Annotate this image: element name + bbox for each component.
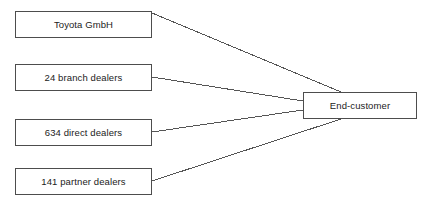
node-partner-dealers[interactable]: 141 partner dealers [15,168,152,195]
connector-direct-to-endcustomer [152,110,303,132]
node-toyota-gmbh[interactable]: Toyota GmbH [15,11,152,38]
node-label: End-customer [330,101,390,111]
node-label: Toyota GmbH [54,20,113,30]
node-label: 141 partner dealers [41,177,125,187]
connector-branch-to-endcustomer [152,77,303,101]
node-end-customer[interactable]: End-customer [303,92,417,119]
connector-toyota-to-endcustomer [152,13,341,92]
node-label: 634 direct dealers [45,128,122,138]
diagram-canvas: Toyota GmbH 24 branch dealers 634 direct… [0,0,428,206]
node-label: 24 branch dealers [45,73,123,83]
node-branch-dealers[interactable]: 24 branch dealers [15,64,152,91]
node-direct-dealers[interactable]: 634 direct dealers [15,119,152,146]
